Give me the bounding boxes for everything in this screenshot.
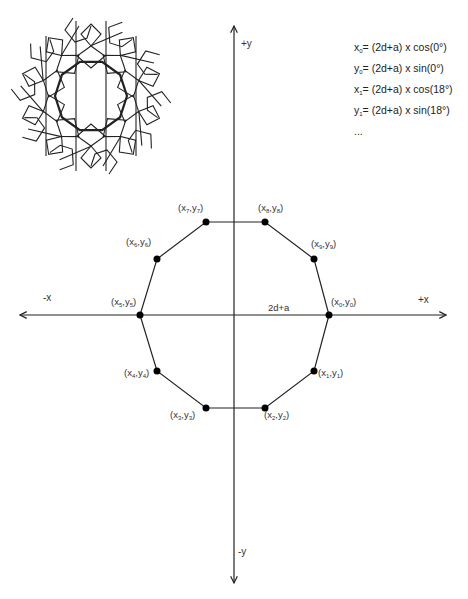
vertex-p3 [203,405,210,412]
plus-y-label: +y [241,38,252,49]
vertex-p4 [154,368,161,375]
vertex-p7 [203,219,210,226]
radius-label: 2d+a [268,302,289,313]
plus-x-label: +x [418,294,429,305]
formula-line-2: x1= (2d+a) x cos(18°) [354,81,453,102]
minus-y-label: -y [238,546,246,557]
vertex-p9 [311,256,318,263]
pattern-thumbnail [8,15,175,176]
point-label-p8: (x8,y8) [258,202,283,214]
point-label-p9: (x9,y9) [311,238,336,250]
vertex-p1 [311,368,318,375]
vertex-p6 [154,256,161,263]
point-label-p5: (x5,y5) [111,296,136,308]
vertex-p0 [326,312,333,319]
formula-line-1: y0= (2d+a) x sin(0°) [354,60,453,81]
vertex-p5 [137,312,144,319]
point-label-p2: (x2,y2) [264,409,289,421]
point-label-p3: (x3,y3) [170,409,195,421]
formula-line-3: y1= (2d+a) x sin(18°) [354,102,453,123]
point-label-p7: (x7,y7) [178,202,203,214]
formula-ellipsis: ... [354,123,453,140]
point-label-p0: (x0,y0) [331,296,356,308]
formula-block: x0= (2d+a) x cos(0°) y0= (2d+a) x sin(0°… [354,39,453,140]
vertex-p8 [262,219,269,226]
minus-x-label: -x [43,292,51,303]
point-label-p4: (x4,y4) [124,367,149,379]
point-label-p6: (x6,y6) [126,236,151,248]
formula-line-0: x0= (2d+a) x cos(0°) [354,39,453,60]
point-label-p1: (x1,y1) [318,367,343,379]
